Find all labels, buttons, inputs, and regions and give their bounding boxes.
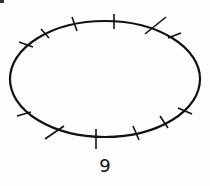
figure-label: 9 [0, 155, 210, 176]
ellipse-outline [10, 21, 200, 137]
tick-mark [145, 17, 166, 34]
